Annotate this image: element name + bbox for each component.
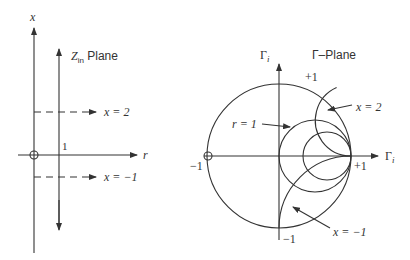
gamma-plane: Γi Γ–Plane +1 −1 −1 +1 Γi r = 1 x = 2 x … <box>190 48 395 246</box>
bottom-label: −1 <box>283 232 296 246</box>
unit-tick-label: 1 <box>62 140 68 152</box>
zin-plane-title: Zin Plane <box>71 49 118 65</box>
arrow-icon <box>89 174 97 180</box>
gamma-plane-title: Γ–Plane <box>312 48 356 62</box>
zin-plane: x r 1 Zin Plane x = 2 x = −1 <box>18 10 148 253</box>
impedance-mapping-diagram: x r 1 Zin Plane x = 2 x = −1 <box>0 0 410 260</box>
arrow-icon <box>89 109 97 115</box>
top-label: +1 <box>305 70 318 84</box>
x-axis-label: x <box>29 10 36 24</box>
left-label: −1 <box>190 159 203 173</box>
right-label: +1 <box>354 159 367 173</box>
x-equals-2-label: x = 2 <box>355 100 381 114</box>
r-equals-1-label: r = 1 <box>232 117 257 131</box>
r1-pointer-arrow <box>262 124 290 127</box>
gamma-i-axis-label: Γi <box>260 48 270 64</box>
x-equals-neg1-label: x = −1 <box>332 225 367 239</box>
x-equals-neg1-label: x = −1 <box>103 170 138 184</box>
x-equals-2-label: x = 2 <box>103 105 129 119</box>
gamma-r-axis-label: Γi <box>385 149 395 165</box>
r-axis-label: r <box>143 148 148 162</box>
